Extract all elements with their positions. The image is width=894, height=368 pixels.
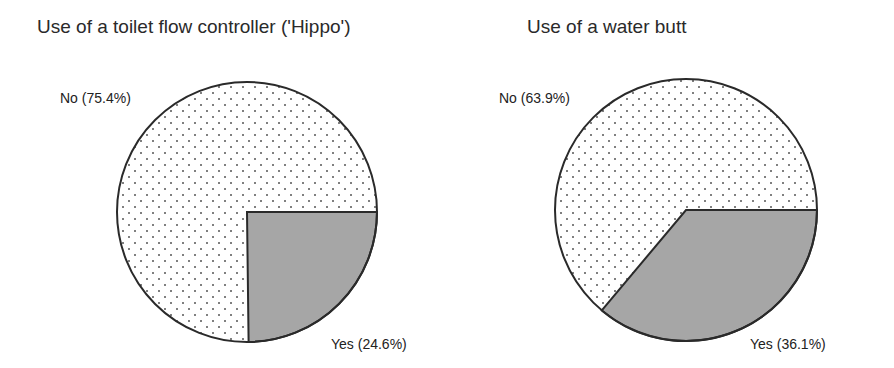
label-no-hippo: No (75.4%) xyxy=(60,90,131,106)
pie-chart-water-butt xyxy=(555,79,817,341)
pie-chart-hippo xyxy=(117,82,377,342)
chart-title-water-butt: Use of a water butt xyxy=(527,16,686,38)
label-yes-hippo: Yes (24.6%) xyxy=(331,336,407,352)
label-yes-water-butt: Yes (36.1%) xyxy=(750,336,826,352)
chart-title-hippo: Use of a toilet flow controller ('Hippo'… xyxy=(37,16,351,38)
pie-slice-yes xyxy=(247,212,377,342)
pie-charts-canvas xyxy=(0,0,894,368)
label-no-water-butt: No (63.9%) xyxy=(499,90,570,106)
